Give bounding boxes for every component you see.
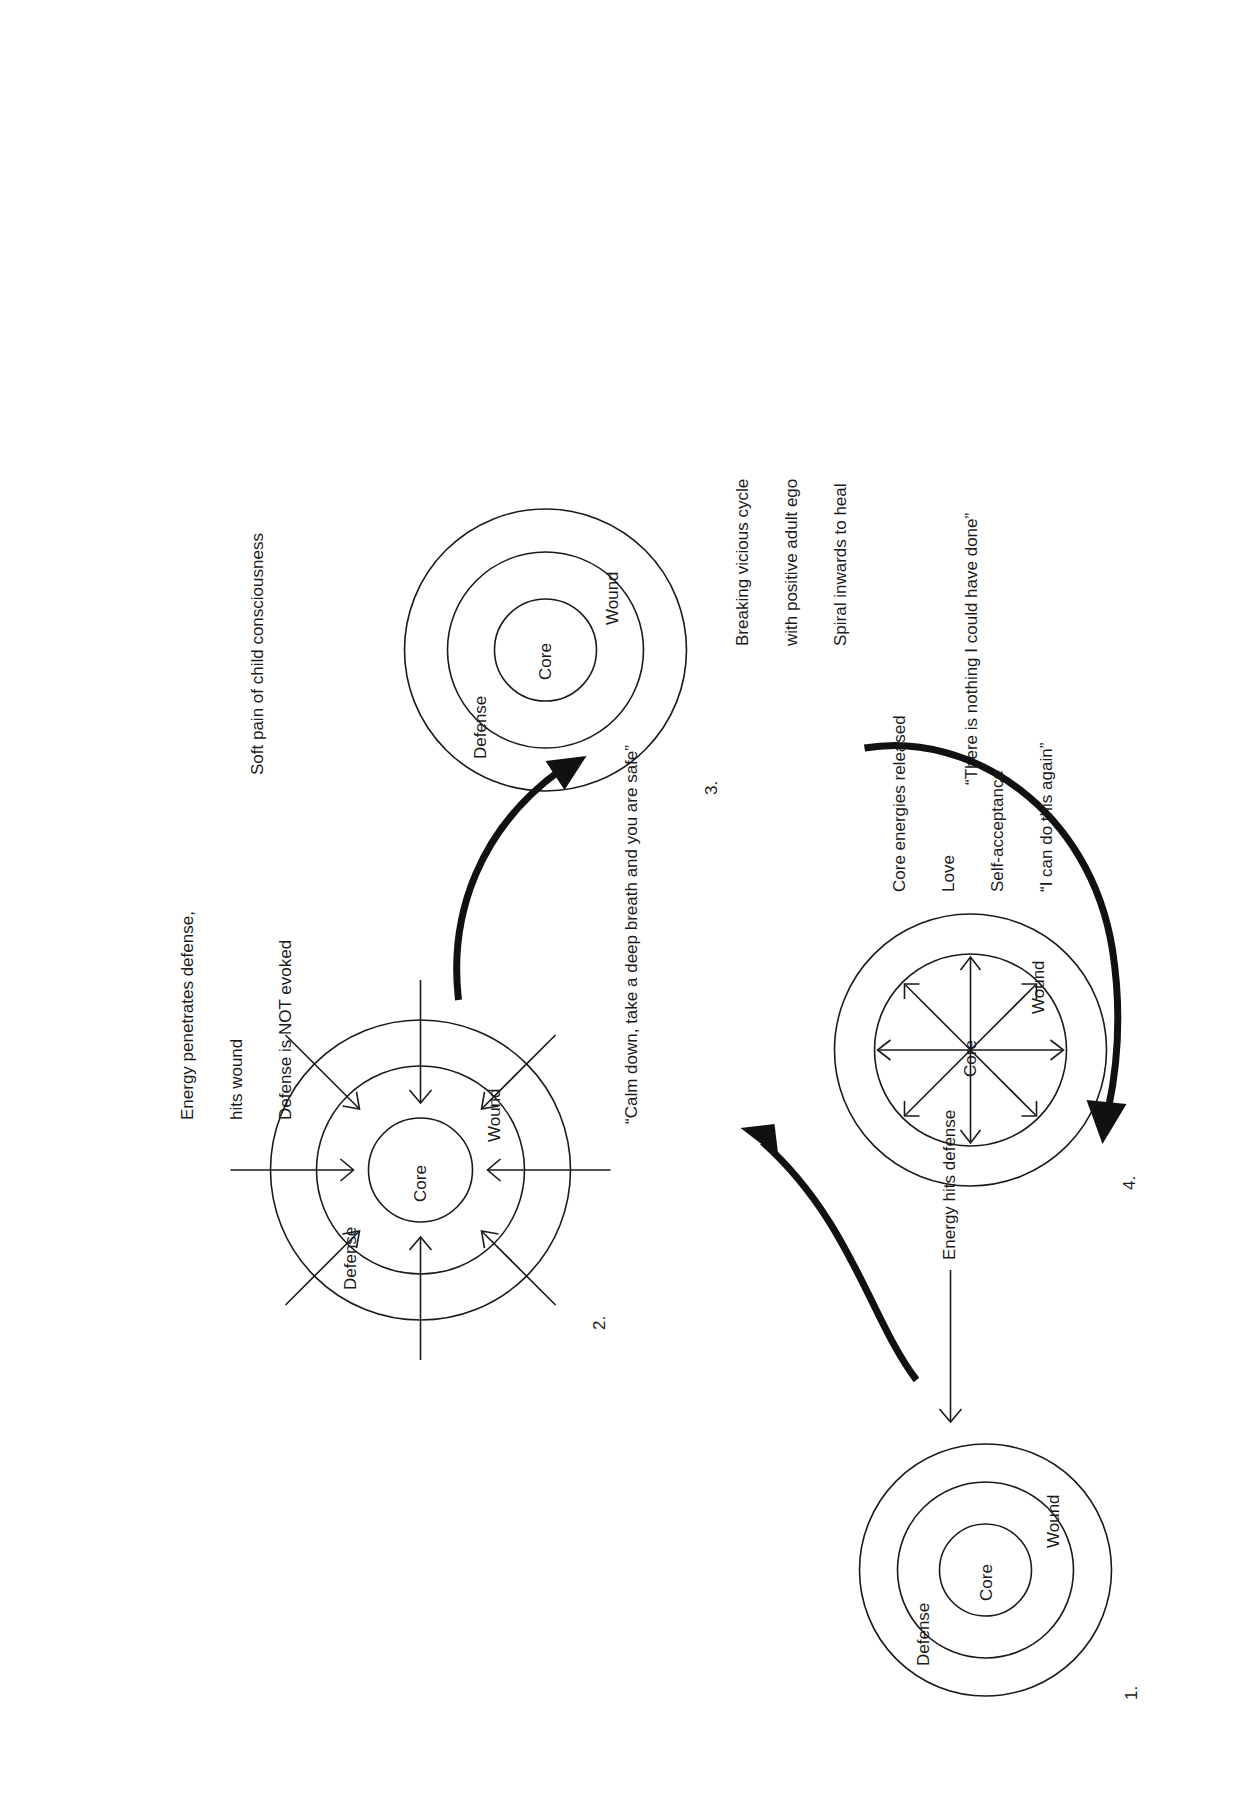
- step-2-caption-line-1: Energy penetrates defense,: [175, 600, 200, 1120]
- diagram-canvas: Defense Core Wound 1. Energy hits defens…: [0, 0, 1239, 1820]
- step-4-caption-line-1: Core energies released: [887, 472, 912, 892]
- step-2-caption-line-2: hits wound: [224, 600, 249, 1120]
- breaking-cycle-line-2: with positive adult ego: [779, 226, 804, 646]
- step-4-core-label: Core: [960, 1040, 980, 1077]
- step-1-wound-label: Wound: [1043, 1494, 1063, 1548]
- step-1-core-label: Core: [976, 1564, 996, 1601]
- step-3-wound-label: Wound: [602, 571, 622, 625]
- step-1-number: 1.: [1120, 1686, 1143, 1700]
- step-1-group: Defense Core Wound: [855, 1440, 1115, 1700]
- step-2-caption-line-3: Defense is NOT evoked: [273, 600, 298, 1120]
- step-3-defense-label: Defense: [470, 696, 490, 759]
- step-3-core-label: Core: [535, 643, 555, 680]
- energy-hits-defense-arrow: [930, 1260, 970, 1435]
- step-2-wound-label: Wound: [484, 1088, 504, 1142]
- step-3-group: Defense Core Wound: [400, 505, 690, 795]
- step-2-defense-label: Defense: [340, 1227, 360, 1290]
- calm-down-label: “Calm down, take a deep breath and you a…: [620, 745, 643, 1124]
- step-3-number: 3.: [700, 781, 723, 795]
- step-4-group: Core Wound: [830, 910, 1110, 1190]
- step-2-core-label: Core: [410, 1165, 430, 1202]
- step-4-caption-line-2: Love: [936, 472, 961, 892]
- step-1-defense-label: Defense: [913, 1603, 933, 1666]
- step-4-caption-line-3: Self-acceptance: [985, 472, 1010, 892]
- step-4-number: 4.: [1118, 1176, 1141, 1190]
- step-2-number: 2.: [588, 1316, 611, 1330]
- diagram-page: Defense Core Wound 1. Energy hits defens…: [0, 0, 1239, 1820]
- soft-pain-label: Soft pain of child consciousness: [246, 533, 269, 775]
- step-2-caption: Energy penetrates defense, hits wound De…: [150, 600, 322, 1120]
- breaking-cycle-line-1: Breaking vicious cycle: [730, 226, 755, 646]
- step-4-caption: Core energies released Love Self-accepta…: [862, 472, 1084, 892]
- breaking-cycle-caption: Breaking vicious cycle with positive adu…: [705, 226, 877, 646]
- step-4-caption-line-4: “I can do this again”: [1034, 472, 1059, 892]
- breaking-cycle-line-3: Spiral inwards to heal: [828, 226, 853, 646]
- step-4-wound-label: Wound: [1028, 960, 1048, 1014]
